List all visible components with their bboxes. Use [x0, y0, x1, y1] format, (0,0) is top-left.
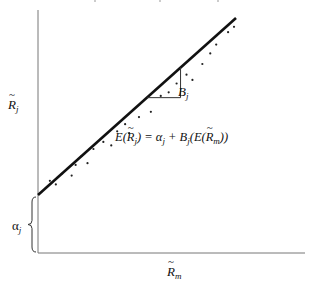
scatter-point	[92, 148, 94, 150]
scatter-point	[191, 79, 193, 81]
x-axis-label-subscript: m	[175, 271, 182, 281]
scatter-point	[227, 31, 229, 33]
eq-part: R	[206, 131, 214, 144]
eq-part: ))	[220, 130, 228, 144]
scatter-point	[55, 183, 57, 185]
scatter-point	[168, 91, 170, 93]
intercept-label-symbol: α	[12, 218, 19, 233]
intercept-label: αj	[12, 219, 21, 235]
slope-label-symbol: B	[178, 84, 186, 99]
eq-part: (E(	[190, 130, 206, 144]
scatter-point	[124, 123, 126, 125]
x-axis-label-symbol: R	[167, 265, 175, 278]
x-axis-label: Rm	[167, 265, 181, 281]
regression-line	[38, 18, 236, 195]
scatter-point	[49, 180, 51, 182]
eq-part: + B	[165, 130, 187, 144]
eq-part: ) = α	[137, 130, 162, 144]
scatter-point	[71, 174, 73, 176]
scatter-point	[160, 95, 162, 97]
scatter-point	[86, 162, 88, 164]
scatter-point	[138, 116, 140, 118]
scatter-point	[110, 144, 112, 146]
eq-part: R	[127, 131, 135, 144]
scatter-point	[233, 26, 235, 28]
eq-part: E(	[115, 130, 127, 144]
intercept-label-subscript: j	[19, 225, 22, 235]
scatter-point	[209, 52, 211, 54]
intercept-brace	[28, 197, 36, 252]
scatter-point	[150, 111, 152, 113]
scatter-point	[185, 74, 187, 76]
scatter-point	[75, 164, 77, 166]
slope-label: Bj	[178, 85, 188, 101]
slope-label-subscript: j	[186, 91, 189, 101]
scatter-point	[215, 43, 217, 45]
regression-equation: E(Rj) = αj + Bj(E(Rm))	[115, 131, 228, 146]
scatter-point	[201, 63, 203, 65]
y-axis-label: Rj	[8, 98, 18, 114]
y-axis-label-symbol: R	[8, 98, 16, 111]
scatter-point	[102, 141, 104, 143]
y-axis-label-subscript: j	[16, 104, 19, 114]
